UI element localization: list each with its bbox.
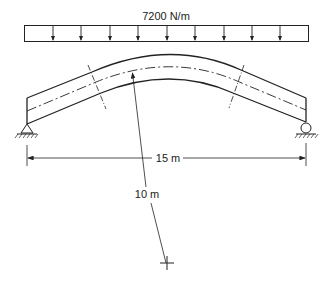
load-arrows — [53, 26, 280, 40]
curved-beam-diagram: 7200 N/m — [0, 0, 335, 285]
radius-label: 10 m — [135, 188, 159, 200]
load-box — [25, 26, 309, 42]
radius-dimension — [133, 73, 175, 270]
beam-top-edge — [27, 54, 306, 98]
roller-support-right — [295, 123, 318, 138]
distributed-load: 7200 N/m — [25, 10, 309, 42]
beam-centerline — [27, 67, 306, 111]
beam-bottom-edge — [27, 79, 306, 124]
pin-support-left — [15, 124, 38, 138]
span-label: 15 m — [156, 152, 180, 164]
right-tangent-line — [229, 65, 244, 108]
curved-beam — [27, 54, 306, 124]
load-label: 7200 N/m — [142, 10, 190, 22]
left-tangent-line — [88, 65, 106, 109]
